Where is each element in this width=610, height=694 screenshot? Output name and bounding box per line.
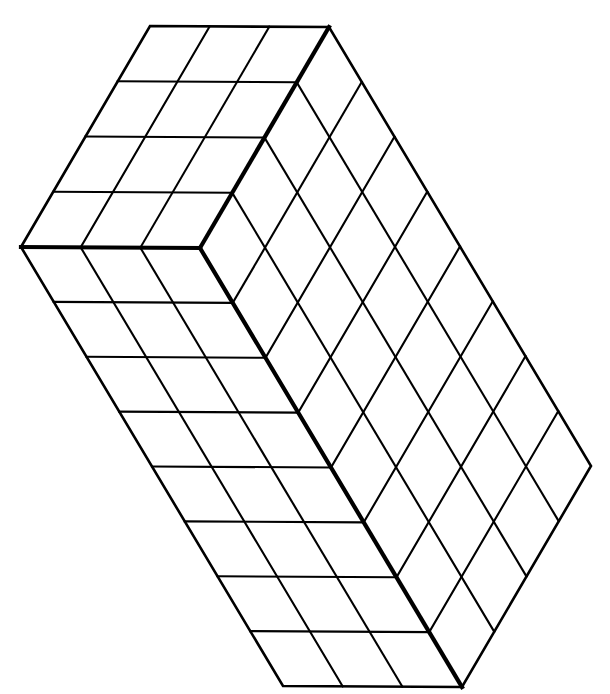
figure-canvas: Isometric rectangular prism built from u…	[0, 0, 610, 694]
isometric-cuboid-drawing: Isometric rectangular prism built from u…	[0, 0, 610, 694]
